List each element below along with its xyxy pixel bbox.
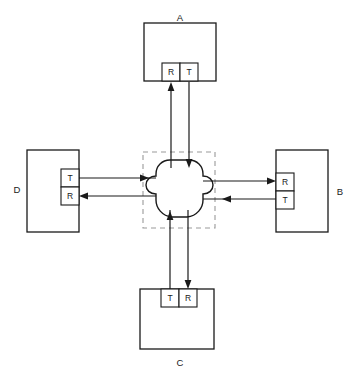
arrowhead-center-to-c-r [185, 280, 192, 289]
node-b-port-t-label: T [282, 195, 287, 205]
node-a-port-r-label: R [168, 67, 174, 77]
arrowhead-center-to-a-r [168, 82, 175, 91]
central-cloud-shape[interactable] [146, 160, 213, 217]
node-c-port-t-label: T [167, 293, 172, 303]
node-label-c: C [177, 357, 184, 368]
arrowhead-b-t-to-center [222, 196, 231, 203]
arrowhead-center-to-d-r [79, 193, 88, 200]
node-a-port-t-label: T [186, 67, 191, 77]
diagram-canvas: A R T B R T C T R D T R [0, 0, 358, 378]
node-b-port-r-label: R [282, 177, 288, 187]
node-label-a: A [177, 12, 184, 23]
arrowhead-center-to-b-r [267, 178, 276, 185]
node-d-port-t-label: T [67, 173, 72, 183]
node-d-port-r-label: R [67, 191, 73, 201]
node-label-d: D [14, 184, 21, 195]
topology-figure: A R T B R T C T R D T R [0, 0, 358, 378]
node-c-port-r-label: R [185, 293, 191, 303]
node-label-b: B [337, 186, 343, 197]
